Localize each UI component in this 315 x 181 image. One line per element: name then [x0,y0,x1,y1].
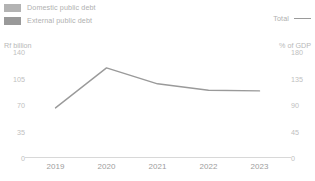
left-tick-0: 0 [21,154,25,163]
total-line [56,68,260,108]
total-line-swatch-icon [294,18,311,19]
x-axis-baseline [25,157,291,158]
legend: Domestic public debt External public deb… [4,2,96,28]
x-axis-labels: 20192020202120222023 [30,162,285,171]
left-tick-140: 140 [13,48,25,57]
x-axis-label: 2022 [183,162,234,171]
x-axis-label: 2020 [81,162,132,171]
domestic-swatch-icon [4,4,21,12]
left-tick-35: 35 [17,127,25,136]
external-swatch-icon [4,17,21,25]
left-tick-70: 70 [17,101,25,110]
plot-area: 140 105 70 35 0 180 135 90 45 0 [30,52,285,158]
right-tick-90: 90 [291,101,299,110]
right-tick-135: 135 [291,74,303,83]
legend-label-external: External public debt [27,16,92,25]
plot-inner: 140 105 70 35 0 180 135 90 45 0 [30,52,285,158]
x-axis-label: 2019 [30,162,81,171]
legend-label-total: Total [273,14,289,23]
legend-item-domestic: Domestic public debt [4,2,96,13]
legend-item-total: Total [273,14,311,23]
total-line-layer [30,52,285,158]
right-tick-0: 0 [291,154,295,163]
x-axis-label: 2021 [132,162,183,171]
left-tick-105: 105 [13,74,25,83]
x-axis-label: 2023 [234,162,285,171]
debt-chart: Domestic public debt External public deb… [0,0,315,181]
legend-label-domestic: Domestic public debt [27,3,96,12]
right-tick-45: 45 [291,127,299,136]
right-tick-180: 180 [291,48,303,57]
legend-item-external: External public debt [4,15,96,26]
